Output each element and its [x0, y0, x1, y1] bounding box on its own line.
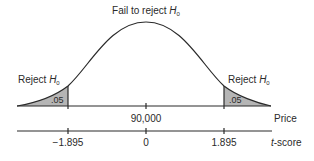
price-center-value: 90,000: [131, 113, 162, 124]
t-center-value: 0: [143, 137, 149, 148]
reject-right-label: Reject H0: [228, 74, 270, 86]
t-left-value: −1.895: [53, 137, 84, 148]
left-area-label: .05: [51, 95, 64, 105]
reject-left-label: Reject H0: [18, 74, 60, 86]
t-axis-label: t-score: [271, 137, 302, 148]
hypothesis-test-diagram: Fail to reject H0 Reject H0 Reject H0 .0…: [0, 0, 314, 161]
fail-to-reject-label: Fail to reject H0: [112, 5, 180, 17]
right-area-label: .05: [229, 95, 242, 105]
price-axis-label: Price: [274, 113, 297, 124]
t-right-value: 1.895: [211, 137, 236, 148]
